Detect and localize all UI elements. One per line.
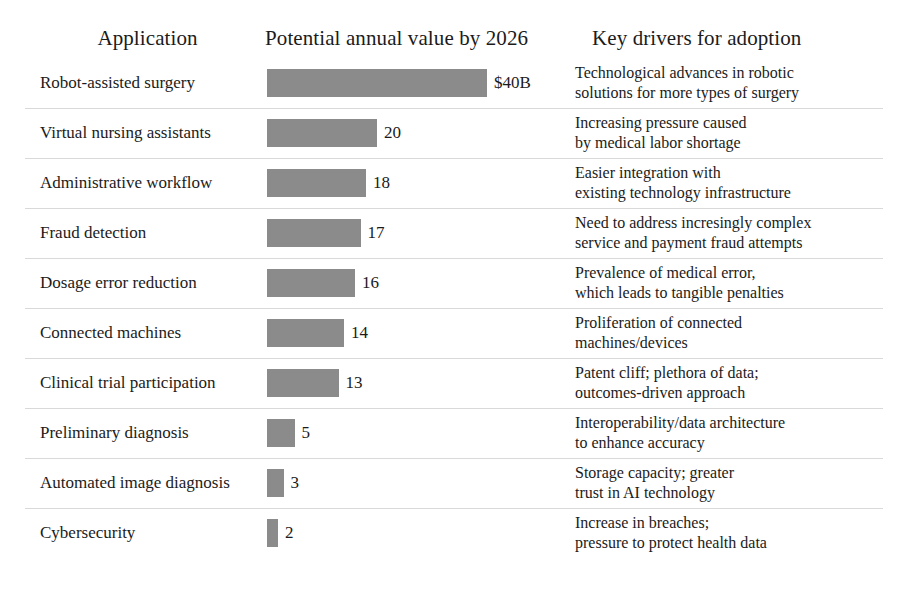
row-divider: [25, 508, 883, 509]
table-row: Clinical trial participation13Patent cli…: [0, 358, 905, 408]
value-bar: [267, 219, 361, 247]
key-driver-text: Need to address incresingly complexservi…: [575, 213, 895, 253]
key-driver-line: Easier integration with: [575, 163, 895, 183]
value-bar: [267, 369, 339, 397]
application-label: Administrative workflow: [40, 172, 262, 194]
bar-track: 16: [267, 269, 557, 297]
key-driver-line: existing technology infrastructure: [575, 183, 895, 203]
key-driver-line: Proliferation of connected: [575, 313, 895, 333]
key-driver-text: Increase in breaches;pressure to protect…: [575, 513, 895, 553]
bar-track: 20: [267, 119, 557, 147]
value-bar: [267, 69, 487, 97]
column-header-application: Application: [40, 24, 255, 52]
bar-value-label: 17: [368, 222, 385, 244]
bar-value-label: 2: [285, 522, 294, 544]
key-driver-text: Patent cliff; plethora of data;outcomes-…: [575, 363, 895, 403]
application-label: Fraud detection: [40, 222, 262, 244]
table-row: Administrative workflow18Easier integrat…: [0, 158, 905, 208]
bar-track: 13: [267, 369, 557, 397]
bar-value-label: 5: [302, 422, 311, 444]
application-label: Connected machines: [40, 322, 262, 344]
application-label: Robot-assisted surgery: [40, 72, 262, 94]
key-driver-line: pressure to protect health data: [575, 533, 895, 553]
value-bar: [267, 519, 278, 547]
row-divider: [25, 208, 883, 209]
key-driver-text: Proliferation of connectedmachines/devic…: [575, 313, 895, 353]
table-row: Preliminary diagnosis5Interoperability/d…: [0, 408, 905, 458]
bar-value-label: 20: [384, 122, 401, 144]
key-driver-text: Increasing pressure causedby medical lab…: [575, 113, 895, 153]
value-bar: [267, 119, 377, 147]
key-driver-line: service and payment fraud attempts: [575, 233, 895, 253]
application-label: Automated image diagnosis: [40, 472, 262, 494]
bar-value-label: 16: [362, 272, 379, 294]
value-bar: [267, 319, 344, 347]
key-driver-line: solutions for more types of surgery: [575, 83, 895, 103]
row-divider: [25, 458, 883, 459]
key-driver-text: Technological advances in roboticsolutio…: [575, 63, 895, 103]
value-bar: [267, 169, 366, 197]
key-driver-line: Need to address incresingly complex: [575, 213, 895, 233]
key-driver-line: Technological advances in robotic: [575, 63, 895, 83]
table-row: Robot-assisted surgery$40BTechnological …: [0, 58, 905, 108]
key-driver-line: which leads to tangible penalties: [575, 283, 895, 303]
application-label: Virtual nursing assistants: [40, 122, 262, 144]
bar-track: 2: [267, 519, 557, 547]
key-driver-line: Interoperability/data architecture: [575, 413, 895, 433]
key-driver-line: Patent cliff; plethora of data;: [575, 363, 895, 383]
application-label: Clinical trial participation: [40, 372, 262, 394]
bar-value-label: 18: [373, 172, 390, 194]
value-by-application-figure: Application Potential annual value by 20…: [0, 0, 905, 591]
key-driver-line: outcomes-driven approach: [575, 383, 895, 403]
bar-track: 5: [267, 419, 557, 447]
key-driver-line: trust in AI technology: [575, 483, 895, 503]
table-row: Virtual nursing assistants20Increasing p…: [0, 108, 905, 158]
row-divider: [25, 408, 883, 409]
table-row: Automated image diagnosis3Storage capaci…: [0, 458, 905, 508]
key-driver-line: Increase in breaches;: [575, 513, 895, 533]
bar-track: 3: [267, 469, 557, 497]
key-driver-line: to enhance accuracy: [575, 433, 895, 453]
table-row: Connected machines14Proliferation of con…: [0, 308, 905, 358]
value-bar: [267, 469, 284, 497]
key-driver-line: Storage capacity; greater: [575, 463, 895, 483]
application-label: Preliminary diagnosis: [40, 422, 262, 444]
key-driver-line: machines/devices: [575, 333, 895, 353]
row-divider: [25, 258, 883, 259]
key-driver-line: Increasing pressure caused: [575, 113, 895, 133]
key-driver-text: Interoperability/data architectureto enh…: [575, 413, 895, 453]
table-row: Cybersecurity2Increase in breaches;press…: [0, 508, 905, 558]
value-bar: [267, 419, 295, 447]
row-divider: [25, 358, 883, 359]
value-bar: [267, 269, 355, 297]
table-row: Dosage error reduction16Prevalence of me…: [0, 258, 905, 308]
bar-track: 18: [267, 169, 557, 197]
row-divider: [25, 308, 883, 309]
bar-track: 17: [267, 219, 557, 247]
application-label: Cybersecurity: [40, 522, 262, 544]
application-label: Dosage error reduction: [40, 272, 262, 294]
key-driver-line: by medical labor shortage: [575, 133, 895, 153]
column-header-potential-value: Potential annual value by 2026: [265, 24, 565, 52]
bar-value-label: 3: [291, 472, 300, 494]
key-driver-text: Easier integration withexisting technolo…: [575, 163, 895, 203]
table-row: Fraud detection17Need to address incresi…: [0, 208, 905, 258]
bar-value-label: 14: [351, 322, 368, 344]
key-driver-text: Prevalence of medical error,which leads …: [575, 263, 895, 303]
column-header-key-drivers: Key drivers for adoption: [592, 24, 892, 52]
column-header-row: Application Potential annual value by 20…: [0, 24, 905, 56]
key-driver-line: Prevalence of medical error,: [575, 263, 895, 283]
row-divider: [25, 108, 883, 109]
bar-track: $40B: [267, 69, 557, 97]
key-driver-text: Storage capacity; greatertrust in AI tec…: [575, 463, 895, 503]
data-rows: Robot-assisted surgery$40BTechnological …: [0, 58, 905, 558]
bar-value-label: 13: [346, 372, 363, 394]
row-divider: [25, 158, 883, 159]
bar-value-label: $40B: [494, 72, 531, 94]
bar-track: 14: [267, 319, 557, 347]
